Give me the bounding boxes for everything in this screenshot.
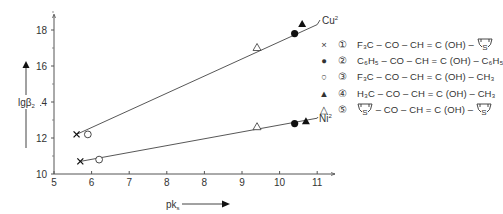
legend-number: ② [331,55,353,66]
x-axis-label: pks [166,199,180,211]
y-tick-label: 12 [36,133,48,144]
thiophene-ring-icon: S [476,102,492,116]
legend-marker-icon: ○ [317,71,331,82]
legend-formula: S – CO – CH = C (OH) – S [353,102,492,116]
legend-item-5: △⑤S – CO – CH = C (OH) – S [317,101,503,117]
y-label-arrow-icon [23,61,30,68]
data-point-filled-circle-cu [291,30,298,37]
data-point-open-triangle-cu [253,44,261,51]
x-tick-label: 8 [202,177,208,188]
legend-item-4: ▲④H₃C – CO – CH = C (OH) – CH₃ [317,85,503,101]
thiophene-ring-icon: S [477,37,493,51]
legend-marker-icon: × [317,39,331,50]
x-tick-label: 11 [312,177,323,188]
thiophene-ring-icon: S [357,102,373,116]
legend-formula: F₃C – CO – CH = C (OH) – CH₃ [353,71,494,82]
data-point-filled-triangle-cu [298,20,306,27]
x-label-arrow-icon [222,201,230,208]
legend-item-3: ○③F₃C – CO – CH = C (OH) – CH₃ [317,69,503,85]
data-point-open-triangle-ni [253,123,261,130]
svg-text:S: S [482,43,487,51]
cu-line-label: Cu2 [322,15,339,26]
legend-item-1: ×①F₃C – CO – CH = C (OH) – S [317,36,503,52]
x-tick-label: 9 [239,177,245,188]
y-tick-label: 10 [36,169,48,180]
legend-number: ③ [331,71,353,82]
x-tick-label: 7 [126,177,132,188]
legend-formula: C₆H₅ – CO – CH = C (OH) – C₆H₅ [353,55,503,66]
svg-text:S: S [362,108,367,116]
legend: ×①F₃C – CO – CH = C (OH) – S●②C₆H₅ – CO … [317,36,503,117]
data-point-open-circle-ni [96,156,103,163]
fit-lines [77,20,320,161]
legend-item-2: ●②C₆H₅ – CO – CH = C (OH) – C₆H₅ [317,52,503,68]
x-tick-label: 10 [274,177,286,188]
x-tick-label: 5 [51,177,57,188]
legend-marker-icon: ▲ [317,88,331,99]
x-tick-label: 6 [89,177,95,188]
legend-number: ⑤ [331,104,353,115]
data-point-open-circle-cu [84,131,91,138]
legend-formula: H₃C – CO – CH = C (OH) – CH₃ [353,88,496,99]
svg-text:S: S [481,108,486,116]
legend-marker-icon: ● [317,55,331,66]
fit-line-cu2 [77,25,318,135]
data-points [74,20,310,164]
data-point-x-cu [74,131,80,137]
x-tick-label: 8 [164,177,170,188]
data-point-filled-circle-ni [291,120,298,127]
fit-line-ni2 [80,118,317,161]
y-tick-label: 16 [36,61,48,72]
legend-marker-icon: △ [317,104,331,115]
legend-number: ④ [331,88,353,99]
legend-formula: F₃C – CO – CH = C (OH) – S [353,37,493,51]
legend-number: ① [331,39,353,50]
y-tick-label: 18 [36,25,48,36]
